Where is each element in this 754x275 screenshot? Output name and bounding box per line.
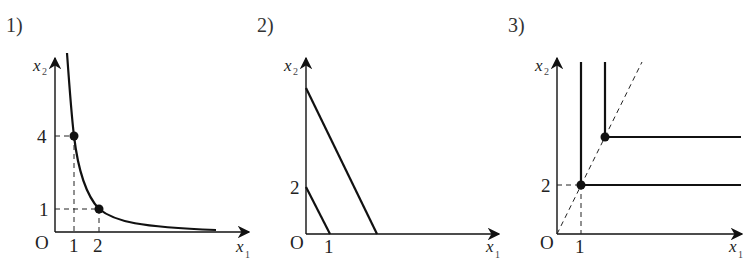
y-tick-4: 4 xyxy=(37,126,47,147)
budget-line-inner xyxy=(306,187,330,234)
x-axis-label: x xyxy=(485,237,494,256)
x-tick-1: 1 xyxy=(324,236,334,257)
panel-1-number: 1) xyxy=(6,14,23,37)
x-axis-label: x xyxy=(728,237,737,256)
x-axis-sub: 1 xyxy=(738,249,743,260)
point-2-4 xyxy=(601,133,610,142)
x-tick-1: 1 xyxy=(575,236,585,257)
point-2-1 xyxy=(95,205,104,214)
y-axis-label: x xyxy=(32,56,41,75)
panel-2: 2) x 2 x 1 O 1 2 xyxy=(257,14,500,260)
panel-3: 3) x 2 x 1 O 1 2 xyxy=(508,14,743,260)
x-axis-sub: 1 xyxy=(245,249,250,260)
y-axis-sub: 2 xyxy=(544,66,549,77)
x-tick-1: 1 xyxy=(69,235,79,256)
panel-1: 1) x 2 x 1 O 1 2 4 1 xyxy=(6,14,250,260)
indifference-curve xyxy=(67,53,216,230)
y-tick-2: 2 xyxy=(541,175,551,196)
y-axis-label: x xyxy=(283,56,292,75)
point-1-4 xyxy=(70,132,79,141)
y-axis-label: x xyxy=(534,56,543,75)
budget-line-outer xyxy=(306,88,377,234)
y-axis-sub: 2 xyxy=(293,66,298,77)
y-tick-2: 2 xyxy=(290,177,300,198)
point-1-2 xyxy=(577,181,586,190)
l-curve-outer xyxy=(605,62,741,137)
panel-3-number: 3) xyxy=(508,14,525,37)
y-axis-sub: 2 xyxy=(42,66,47,77)
panel-2-number: 2) xyxy=(257,14,274,37)
y-tick-1: 1 xyxy=(39,199,49,220)
origin-label: O xyxy=(290,232,304,253)
expansion-ray xyxy=(557,62,642,234)
x-tick-2: 2 xyxy=(93,235,103,256)
diagram-canvas: 1) x 2 x 1 O 1 2 4 1 2) x 2 x 1 xyxy=(0,0,754,275)
x-axis-label: x xyxy=(235,237,244,256)
origin-label: O xyxy=(35,232,49,253)
x-axis-sub: 1 xyxy=(495,249,500,260)
origin-label: O xyxy=(540,232,554,253)
